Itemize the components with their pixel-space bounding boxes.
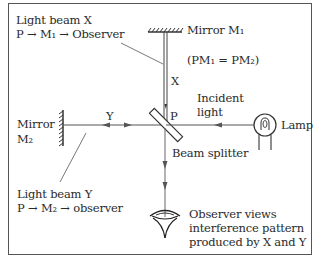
mirror-m1-icon xyxy=(148,28,183,32)
beam-y-path-label: P → M₂ → observer xyxy=(17,202,123,215)
mirror-m2-label-line1: Mirror xyxy=(17,118,55,131)
beam-x-title-label: Light beam X xyxy=(16,14,92,27)
point-p-label: P xyxy=(170,110,178,123)
incident-light-label-line2: light xyxy=(197,106,223,119)
beam-x-marker-label: X xyxy=(171,75,179,88)
lamp-label: Lamp xyxy=(281,119,313,132)
beam-y-path xyxy=(63,123,165,128)
observer-label-line3: produced by X and Y xyxy=(189,236,306,249)
lamp-icon xyxy=(254,114,276,150)
beam-splitter-label: Beam splitter xyxy=(172,147,248,160)
beam-y-leader-line xyxy=(60,133,86,182)
mirror-m2-label-line2: M₂ xyxy=(17,133,33,146)
beam-to-observer-path xyxy=(163,128,168,217)
beam-y-title-label: Light beam Y xyxy=(17,188,92,201)
mirror-m1-label: Mirror M₁ xyxy=(187,24,244,37)
beam-x-leader-line xyxy=(121,43,163,64)
mirror-m2-icon xyxy=(59,110,63,146)
beam-x-path xyxy=(164,32,167,128)
observer-label-line1: Observer views xyxy=(189,208,276,221)
beam-y-marker-label: Y xyxy=(106,110,113,123)
observer-label-line2: interference pattern xyxy=(189,222,304,235)
incident-light-path xyxy=(166,123,254,128)
path-equality-label: (PM₁ = PM₂) xyxy=(187,54,259,67)
incident-light-label-line1: Incident xyxy=(197,92,244,105)
beam-x-path-label: P → M₁ → Observer xyxy=(16,28,124,41)
